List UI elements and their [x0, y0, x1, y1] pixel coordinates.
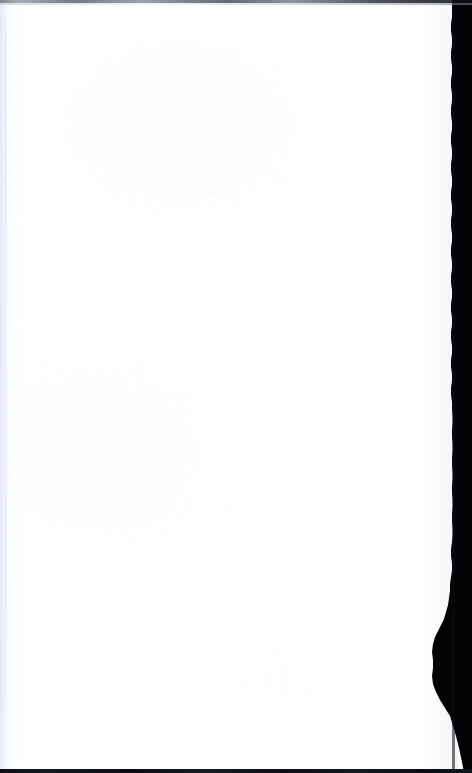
scan-line-top-secondary: [0, 3, 472, 5]
paper-tone-variation: [0, 0, 472, 773]
left-edge-hairline: [5, 6, 6, 751]
scan-line-bottom: [0, 769, 472, 773]
left-margin-tint: [0, 0, 14, 773]
scanned-page: [0, 0, 472, 773]
